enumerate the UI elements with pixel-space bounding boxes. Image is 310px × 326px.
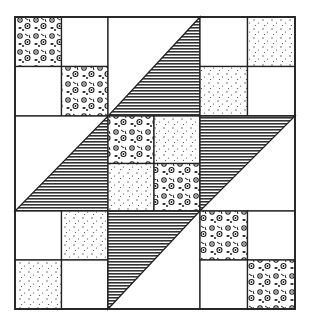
patch-white: [248, 67, 296, 117]
patch-floral: [15, 17, 62, 67]
patch-dotted: [15, 260, 62, 309]
patch-floral: [62, 67, 109, 117]
patch-white: [200, 17, 248, 67]
patch-floral: [248, 260, 296, 309]
quilt-block-diagram: [0, 0, 310, 326]
patch-dotted: [200, 67, 248, 117]
quilt-grid: [15, 17, 295, 309]
patch-white: [15, 211, 62, 260]
patch-floral: [200, 211, 248, 260]
patch-floral: [154, 164, 200, 212]
patch-white: [248, 211, 296, 260]
patch-dotted: [108, 164, 154, 212]
patch-dotted: [248, 17, 296, 67]
patch-white: [62, 260, 109, 309]
patch-floral: [108, 116, 154, 164]
patch-dotted: [154, 116, 200, 164]
patch-white: [200, 260, 248, 309]
patch-white: [62, 17, 109, 67]
patch-white: [15, 67, 62, 117]
patch-dotted: [62, 211, 109, 260]
